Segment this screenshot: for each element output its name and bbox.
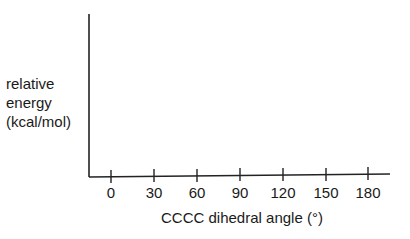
- chart-axes: [0, 0, 410, 239]
- x-tick-label-60: 60: [189, 184, 206, 201]
- x-tick-label-30: 30: [146, 184, 163, 201]
- x-tick-label-0: 0: [107, 184, 115, 201]
- x-tick-label-180: 180: [355, 184, 380, 201]
- x-axis-label: CCCC dihedral angle (°): [161, 209, 323, 226]
- x-tick-label-90: 90: [232, 184, 249, 201]
- x-tick-label-120: 120: [270, 184, 295, 201]
- x-tick-label-150: 150: [313, 184, 338, 201]
